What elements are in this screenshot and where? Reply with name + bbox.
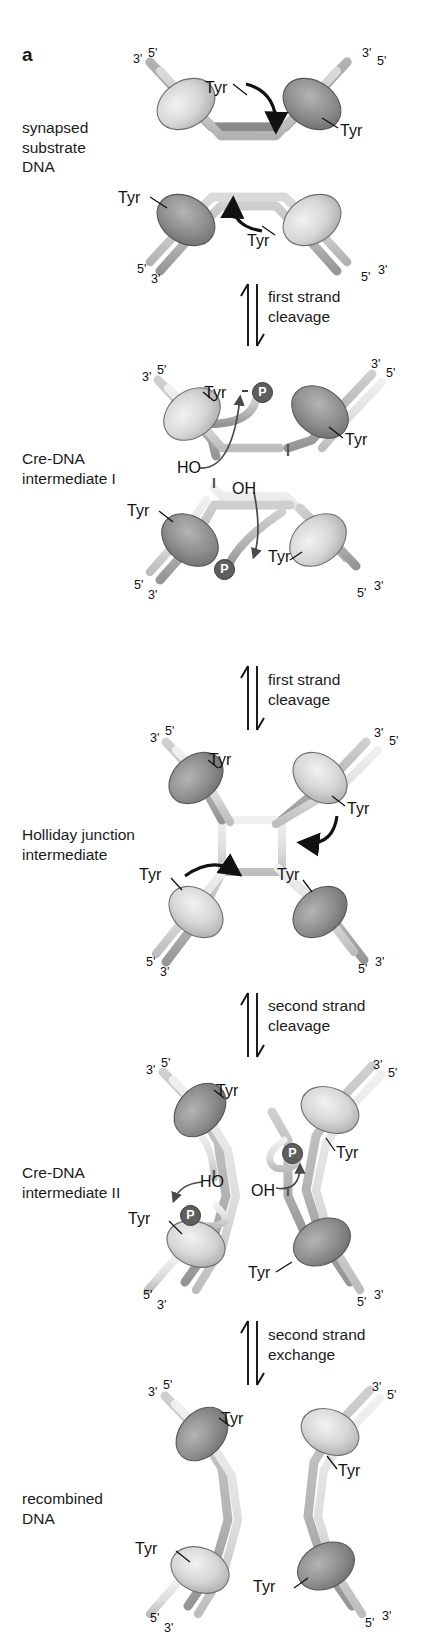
prime-end-label: 3' [133, 52, 142, 66]
tyr-label: Tyr [216, 1082, 238, 1100]
stage-label-synapsed-substrate-dna: synapsed substrate DNA [22, 118, 88, 177]
equilibrium-arrow-second-strand-exchange [241, 1321, 264, 1385]
panel-letter: a [22, 44, 33, 66]
prime-end-label: 3' [151, 272, 160, 286]
prime-end-label: 5' [148, 46, 157, 60]
cre-protomer [279, 503, 356, 577]
tyr-label: Tyr [345, 431, 367, 449]
tyr-label: Tyr [127, 502, 149, 520]
prime-end-label: 5' [161, 1056, 170, 1070]
prime-end-label: 5' [143, 1288, 152, 1302]
prime-end-label: 5' [357, 586, 366, 600]
prime-end-label: 5' [157, 363, 166, 377]
prime-end-label: 5' [386, 366, 395, 380]
ho-label: HO [200, 1173, 224, 1191]
step-label-first-strand-cleavage-2: first strand cleavage [268, 670, 340, 709]
tyr-label: Tyr [268, 548, 290, 566]
prime-end-label: 3' [371, 357, 380, 371]
prime-end-label: 3' [372, 1380, 381, 1394]
prime-end-label: 5' [389, 734, 398, 748]
prime-end-label: 3' [148, 588, 157, 602]
oh-label: OH [251, 1182, 275, 1200]
step-label-second-strand-exchange: second strand exchange [268, 1325, 365, 1364]
prime-end-label: 3' [142, 370, 151, 384]
prime-end-label: 5' [134, 578, 143, 592]
cre-protomer [283, 742, 357, 814]
stage-label-recombined-dna: recombined DNA [22, 1489, 103, 1528]
prime-end-label: 5' [146, 955, 155, 969]
tyr-label: Tyr [347, 800, 369, 818]
prime-end-label: 3' [374, 726, 383, 740]
tyr-label: Tyr [205, 79, 227, 97]
phosphate-badge: P [282, 1143, 303, 1164]
mechanism-artwork [0, 0, 430, 1644]
tyr-label: Tyr [338, 1462, 360, 1480]
nucleophilic-attack-arrow [174, 1182, 202, 1200]
stage-label-cre-dna-intermediate-i: Cre-DNA intermediate I [22, 449, 116, 488]
prime-end-label: 3' [148, 1385, 157, 1399]
strand-exchange-arrow [304, 816, 337, 843]
prime-end-label: 3' [382, 1609, 391, 1623]
prime-end-label: 3' [160, 965, 169, 979]
tyr-label: Tyr [253, 1578, 275, 1596]
prime-end-label: 3' [378, 263, 387, 277]
tyr-label: Tyr [204, 384, 226, 402]
stage-label-cre-dna-intermediate-ii: Cre-DNA intermediate II [22, 1163, 120, 1202]
tyr-label: Tyr [277, 866, 299, 884]
prime-end-label: 3' [373, 1058, 382, 1072]
prime-end-label: 5' [163, 1378, 172, 1392]
prime-end-label: 5' [361, 270, 370, 284]
prime-end-label: 5' [165, 724, 174, 738]
stage-cre-dna-intermediate-ii-artwork [148, 1066, 382, 1290]
tyr-label: Tyr [139, 866, 161, 884]
prime-end-label: 3' [164, 1621, 173, 1635]
stage-label-holliday-junction-intermediate: Holliday junction intermediate [22, 825, 135, 864]
phosphate-badge: P [180, 1205, 201, 1226]
tyr-label: Tyr [247, 232, 269, 250]
prime-end-label: 5' [150, 1611, 159, 1625]
stage-cre-dna-intermediate-i-artwork [150, 374, 382, 580]
prime-end-label: 5' [137, 262, 146, 276]
cre-protomer [289, 1532, 363, 1599]
tyr-label: Tyr [209, 751, 231, 769]
tyr-label: Tyr [340, 122, 362, 140]
prime-end-label: 3' [146, 1063, 155, 1077]
oh-label: OH [232, 480, 256, 498]
equilibrium-arrow-second-strand-cleavage [241, 993, 264, 1057]
prime-end-label: 3' [374, 579, 383, 593]
tyr-label: Tyr [248, 1264, 270, 1282]
phosphate-badge: P [252, 382, 273, 403]
prime-end-label: 5' [357, 1295, 366, 1309]
step-label-second-strand-cleavage: second strand cleavage [268, 996, 365, 1035]
phosphate-badge: P [214, 559, 235, 580]
stage-holliday-junction-artwork [156, 742, 378, 962]
prime-end-label: 5' [358, 962, 367, 976]
prime-end-label: 5' [377, 54, 386, 68]
strand-attack-arrow [246, 84, 276, 127]
step-label-first-strand-cleavage-1: first strand cleavage [268, 287, 340, 326]
tyr-label: Tyr [221, 1410, 243, 1428]
prime-end-label: 3' [375, 955, 384, 969]
cre-recombinase-mechanism-figure: a synapsed substrate DNA Cre-DNA interme… [0, 0, 430, 1644]
tyr-label: Tyr [128, 1210, 150, 1228]
equilibrium-arrow-first-strand-cleavage-2 [241, 666, 264, 730]
prime-end-label: 5' [387, 1388, 396, 1402]
prime-end-label: 3' [362, 46, 371, 60]
ho-label: HO [177, 459, 201, 477]
equilibrium-arrow-first-strand-cleavage-1 [241, 284, 264, 346]
prime-end-label: 3' [374, 1288, 383, 1302]
tyr-label: Tyr [135, 1540, 157, 1558]
prime-end-label: 3' [150, 731, 159, 745]
prime-end-label: 3' [157, 1298, 166, 1312]
tyr-label: Tyr [336, 1144, 358, 1162]
prime-end-label: 5' [388, 1066, 397, 1080]
cre-protomer [164, 1538, 236, 1601]
prime-end-label: 5' [365, 1616, 374, 1630]
tyr-label: Tyr [118, 189, 140, 207]
